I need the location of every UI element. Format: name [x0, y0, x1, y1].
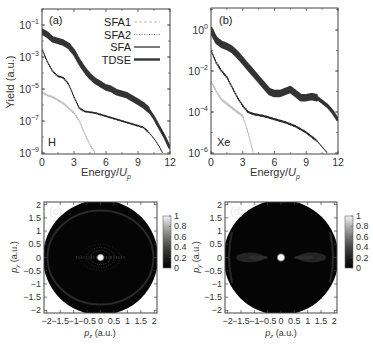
x-tick-label: −0.5 [78, 316, 96, 326]
panel-c-colorbar [163, 216, 171, 268]
legend-label-sfa: SFA [110, 41, 131, 53]
figure: 03691210−110−310−510−710−9 (a) H SFA1SFA… [0, 0, 373, 350]
y-tick-label: 0.5 [209, 239, 222, 249]
y-tick-label: 0 [217, 253, 222, 263]
panel-b-label: (b) [219, 14, 232, 26]
y-tick-label: 1 [217, 226, 222, 236]
x-tick-label: 2 [332, 316, 337, 326]
x-tick-label: 0 [208, 156, 214, 168]
panel-d-xlabel: pz (a.u.) [264, 328, 297, 339]
colorbar-tick-label: 0.2 [174, 253, 187, 263]
y-tick-label: 0.5 [28, 239, 41, 249]
colorbar-tick-label: 1 [174, 211, 179, 221]
panel-c-ylabel: py (a.u.) [9, 241, 20, 274]
y-tick-label: 10−1 [19, 18, 39, 31]
y-tick-label: 10−3 [19, 50, 39, 63]
colorbar-tick-label: 0.8 [356, 221, 369, 231]
colorbar-tick-label: 0.6 [356, 232, 369, 242]
x-tick-label: 0.5 [288, 316, 301, 326]
x-tick-label: −0.5 [259, 316, 277, 326]
y-tick-label: −2 [31, 305, 41, 315]
y-tick-label: 10−2 [188, 64, 208, 77]
panel-a-curves [42, 30, 170, 153]
x-tick-label: 1.5 [135, 316, 148, 326]
panel-c-colorbar-ticks: 10.80.60.40.20 [169, 211, 187, 273]
x-tick-label: 12 [164, 156, 176, 168]
panel-a-yield-h: 03691210−110−310−510−710−9 (a) H SFA1SFA… [4, 9, 176, 181]
y-tick-label: −1.5 [204, 292, 222, 302]
panel-b-frame [211, 8, 338, 154]
y-tick-label: −2 [212, 305, 222, 315]
panel-d-momentum-map: −2−1.5−1−0.500.511.5221.510.50−0.5−1−1.5… [191, 200, 369, 339]
legend-label-sfa1: SFA1 [104, 16, 131, 28]
panel-a-label: (a) [49, 14, 62, 26]
x-tick-label: 3 [240, 156, 246, 168]
x-tick-label: 12 [332, 156, 344, 168]
y-tick-label: 2 [36, 200, 41, 210]
y-tick-label: 1.5 [28, 213, 41, 223]
x-tick-label: 0 [98, 316, 103, 326]
y-tick-label: 100 [192, 23, 208, 36]
panel-c-momentum-map: −2−1.5−1−0.500.511.5221.510.50−0.5−1−1.5… [9, 200, 187, 339]
x-tick-label: 2 [152, 316, 157, 326]
panel-b-curves [211, 28, 338, 152]
x-tick-label: 0 [39, 156, 45, 168]
y-tick-label: 1 [36, 226, 41, 236]
x-tick-label: 3 [71, 156, 77, 168]
x-tick-label: 0 [278, 316, 283, 326]
y-tick-label: 10−6 [188, 146, 208, 159]
panel-b-atom-label: Xe [217, 136, 230, 148]
y-tick-label: 0 [36, 253, 41, 263]
colorbar-tick-label: 0.4 [356, 242, 369, 252]
x-tick-label: 9 [135, 156, 141, 168]
y-tick-label: 10−5 [19, 82, 39, 95]
panel-a-ylabel: Yield (a.u.) [4, 56, 16, 109]
colorbar-tick-label: 0.6 [174, 232, 187, 242]
y-tick-label: −0.5 [23, 266, 41, 276]
colorbar-tick-label: 1 [356, 211, 361, 221]
legend: SFA1SFA2SFATDSE [102, 16, 160, 66]
legend-label-sfa2: SFA2 [104, 29, 131, 41]
y-tick-label: 10−7 [19, 114, 39, 127]
y-tick-label: −1 [212, 279, 222, 289]
x-tick-label: 1 [125, 316, 130, 326]
y-tick-label: 10−4 [188, 105, 208, 118]
y-tick-label: −1 [31, 279, 41, 289]
panel-b-xlabel: Energy/Up [250, 166, 300, 181]
panel-d-colorbar [345, 216, 353, 268]
panel-b-yield-xe: 03691210010−210−410−6 (b) Xe Energy/Up [188, 8, 344, 181]
x-tick-label: −1.5 [51, 316, 69, 326]
y-tick-label: −0.5 [204, 266, 222, 276]
x-tick-label: 9 [303, 156, 309, 168]
x-tick-label: 1 [305, 316, 310, 326]
panel-a-xlabel: Energy/Up [81, 166, 131, 181]
panel-d-colorbar-ticks: 10.80.60.40.20 [351, 211, 369, 273]
legend-label-tdse: TDSE [102, 54, 131, 66]
panel-d-ylabel: py (a.u.) [191, 241, 202, 274]
panel-c-label: (c) [49, 205, 62, 217]
y-tick-label: 1.5 [209, 213, 222, 223]
colorbar-tick-label: 0.8 [174, 221, 187, 231]
y-tick-label: 2 [217, 200, 222, 210]
colorbar-tick-label: 0.4 [174, 242, 187, 252]
x-tick-label: 1.5 [315, 316, 328, 326]
panel-d-heatmap [224, 200, 339, 315]
colorbar-tick-label: 0 [174, 263, 179, 273]
x-tick-label: −1.5 [232, 316, 250, 326]
panel-d-label: (d) [230, 205, 243, 217]
y-tick-label: 10−9 [19, 146, 39, 159]
y-tick-label: −1.5 [23, 292, 41, 302]
colorbar-tick-label: 0 [356, 263, 361, 273]
colorbar-tick-label: 0.2 [356, 253, 369, 263]
panel-c-heatmap [43, 200, 158, 315]
x-tick-label: 0.5 [108, 316, 121, 326]
panel-a-atom-label: H [48, 136, 56, 148]
panel-c-xlabel: pz (a.u.) [83, 328, 116, 339]
